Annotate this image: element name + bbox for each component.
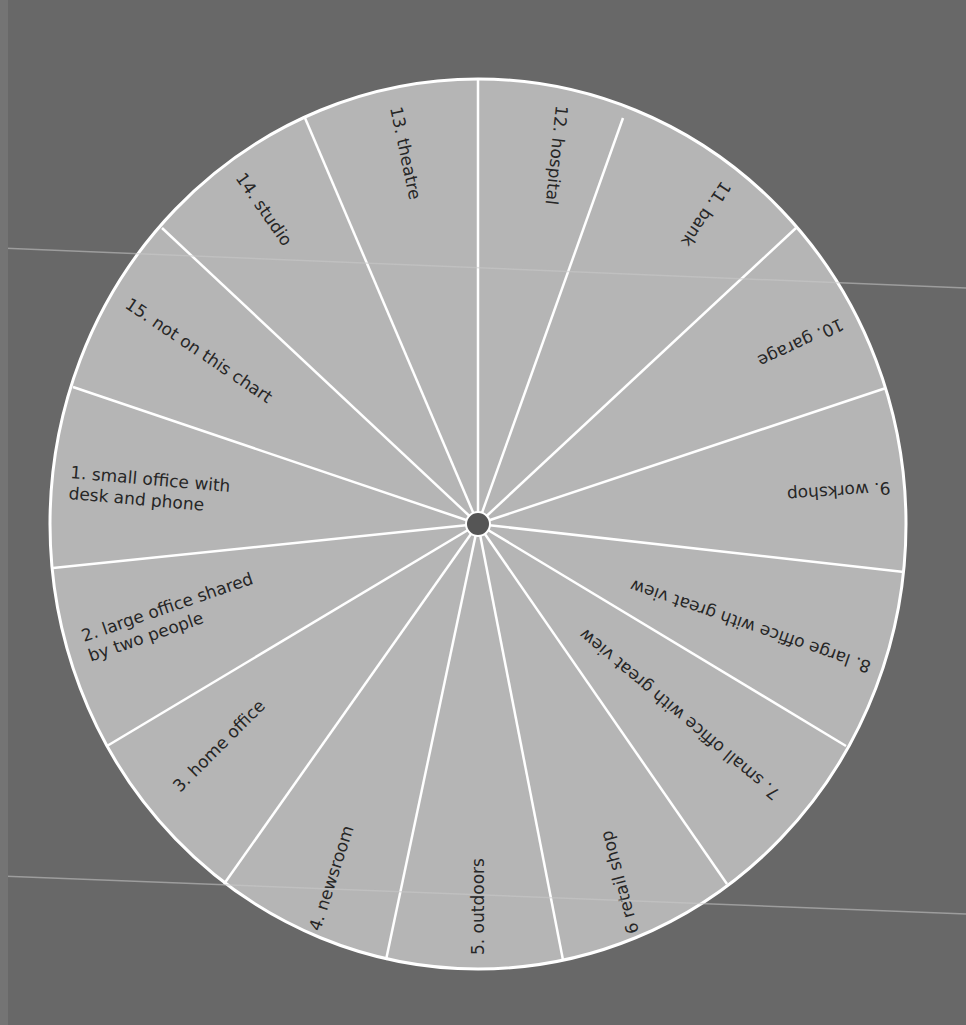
job-environment-wheel: 1. small office withdesk and phone2. lar… bbox=[0, 0, 966, 1025]
job-wheel-scan: 1. small office withdesk and phone2. lar… bbox=[0, 0, 966, 1025]
scan-page-edge bbox=[0, 0, 8, 1025]
wheel-hub bbox=[466, 512, 490, 536]
sector-label-5: 5. outdoors bbox=[468, 858, 488, 955]
